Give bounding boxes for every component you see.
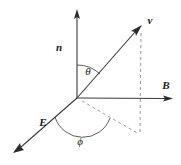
phi-angle-label: ϕ <box>77 135 83 147</box>
E-axis-line <box>21 98 77 147</box>
n-axis-label: n <box>56 41 62 53</box>
theta-angle-label: θ <box>85 65 91 77</box>
B-axis-label: B <box>161 79 169 91</box>
v-vector-label: v <box>148 14 153 26</box>
v-ground-projection-dashed-line <box>82 101 139 134</box>
E-axis-arrow-icon <box>13 143 24 153</box>
B-axis-line <box>77 98 165 99</box>
vector-diagram-canvas: n v B E θ ϕ <box>0 0 181 165</box>
vector-diagram-figure: n v B E θ ϕ <box>0 0 181 165</box>
v-vertical-drop-dashed-line <box>140 33 141 134</box>
E-axis-label: E <box>38 116 46 128</box>
